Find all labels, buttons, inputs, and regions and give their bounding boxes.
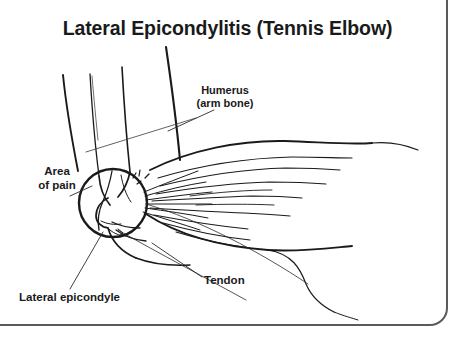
- magnifier-circle: [79, 169, 147, 237]
- label-area-of-pain-line2: of pain: [27, 179, 87, 193]
- label-humerus-line2: (arm bone): [186, 97, 264, 110]
- diagram-page: Lateral Epicondylitis (Tennis Elbow): [0, 0, 465, 347]
- label-lateral-epicondyle: Lateral epicondyle: [19, 291, 120, 305]
- label-humerus-line1: Humerus: [186, 84, 264, 97]
- label-area-of-pain: Area of pain: [27, 165, 87, 192]
- leader-lateral-epicondyle: [70, 232, 103, 289]
- label-humerus: Humerus (arm bone): [186, 84, 264, 110]
- label-area-of-pain-line1: Area: [27, 165, 87, 179]
- label-tendon: Tendon: [204, 274, 245, 288]
- muscle-fiber-striations: [150, 157, 352, 248]
- upper-arm-outlines: [63, 47, 180, 176]
